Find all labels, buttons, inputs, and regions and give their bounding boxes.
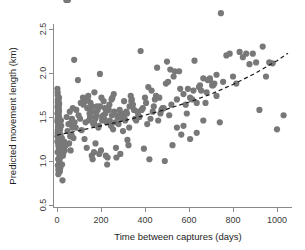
data-point	[155, 117, 161, 123]
data-point	[194, 130, 200, 136]
data-point	[109, 95, 115, 101]
data-point	[125, 142, 131, 148]
x-axis-title: Time between captures (days)	[114, 231, 241, 242]
data-point	[260, 44, 266, 50]
data-point	[69, 124, 75, 130]
data-point	[122, 116, 128, 122]
data-point	[200, 117, 206, 123]
data-point	[185, 86, 191, 92]
data-point	[124, 110, 130, 116]
data-point	[128, 93, 134, 99]
data-point	[184, 110, 190, 116]
data-point	[94, 103, 100, 109]
data-point	[103, 153, 109, 159]
data-point	[256, 107, 262, 113]
data-point	[55, 89, 61, 95]
x-tick-label: 800	[225, 215, 240, 225]
data-point	[150, 109, 156, 115]
data-point	[75, 77, 81, 83]
plot-canvas: 0.51.01.52.02.5 02004006008001000 Time b…	[0, 0, 305, 250]
data-point	[146, 156, 152, 162]
x-tick-label: 0	[54, 215, 59, 225]
data-point	[56, 117, 62, 123]
data-point	[141, 146, 147, 152]
data-point	[253, 59, 259, 65]
data-point	[85, 93, 91, 99]
data-point	[274, 126, 280, 132]
data-point	[180, 91, 186, 97]
data-point	[263, 73, 269, 79]
y-tick-label: 1.0	[38, 155, 48, 168]
data-point	[55, 167, 61, 173]
data-point	[113, 145, 119, 151]
data-point	[211, 80, 217, 86]
data-point	[227, 51, 233, 57]
y-axis-title: Predicted movement length (km)	[7, 47, 18, 184]
data-point	[59, 161, 65, 167]
data-point	[139, 107, 145, 113]
y-tick-label: 0.5	[38, 199, 48, 212]
data-point	[178, 132, 184, 138]
data-point	[99, 114, 105, 120]
data-point	[180, 123, 186, 129]
data-point	[202, 100, 208, 106]
x-tick-label: 400	[137, 215, 152, 225]
data-point	[86, 110, 92, 116]
data-point	[104, 161, 110, 167]
scatter-plot-figure: 0.51.01.52.02.5 02004006008001000 Time b…	[0, 0, 305, 250]
data-point	[60, 153, 66, 159]
data-point	[165, 79, 171, 85]
data-point	[91, 149, 97, 155]
data-point	[62, 147, 68, 153]
data-point	[55, 100, 61, 106]
y-tick-label: 2.0	[38, 67, 48, 80]
data-point	[147, 116, 153, 122]
data-point	[213, 72, 219, 78]
data-point	[250, 51, 256, 57]
data-point	[90, 156, 96, 162]
data-point	[143, 100, 149, 106]
data-point	[126, 124, 132, 130]
data-point	[174, 124, 180, 130]
data-point	[105, 105, 111, 111]
data-point	[142, 95, 148, 101]
data-point	[84, 105, 90, 111]
data-point	[246, 61, 252, 67]
data-point	[124, 137, 130, 143]
data-point	[72, 119, 78, 125]
data-point	[144, 121, 150, 127]
data-point	[81, 136, 87, 142]
x-axis-ticks: 02004006008001000	[54, 208, 287, 226]
data-point	[176, 68, 182, 74]
data-point	[230, 73, 236, 79]
data-point	[91, 89, 97, 95]
data-point	[110, 126, 116, 132]
data-point	[164, 58, 170, 64]
data-point	[107, 117, 113, 123]
data-point	[61, 139, 67, 145]
data-point	[169, 142, 175, 148]
data-point	[187, 136, 193, 142]
data-point	[145, 84, 151, 90]
data-point	[59, 177, 65, 183]
data-point	[198, 88, 204, 94]
data-point	[84, 145, 90, 151]
x-tick-label: 200	[93, 215, 108, 225]
data-point	[87, 100, 93, 106]
data-point	[171, 73, 177, 79]
data-point	[98, 95, 104, 101]
data-point	[190, 88, 196, 94]
data-point	[75, 112, 81, 118]
data-point	[71, 57, 77, 63]
data-point	[281, 112, 287, 118]
data-point	[218, 10, 224, 16]
data-point	[138, 48, 144, 54]
data-point	[128, 98, 134, 104]
data-point	[117, 151, 123, 157]
data-point	[191, 58, 197, 64]
data-point	[156, 95, 162, 101]
data-point	[166, 112, 172, 118]
y-tick-label: 2.5	[38, 23, 48, 36]
data-point	[82, 98, 88, 104]
data-point	[237, 49, 243, 55]
